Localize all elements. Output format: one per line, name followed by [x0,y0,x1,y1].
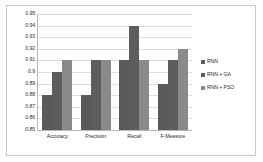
legend-label: RNN [207,59,218,64]
bar [62,60,72,130]
x-axis-tick-label: Precision [85,134,106,139]
legend-swatch-icon [201,86,205,90]
bar [158,84,168,130]
y-axis-tick-label: 0.92 [25,46,35,51]
x-axis-tick-label: Recall [127,134,141,139]
legend-item: RNN + GA [201,72,234,77]
legend-label: RNN + GA [207,72,231,77]
bar-chart-figure: 0.950.940.930.920.910.90.890.880.870.860… [0,0,263,162]
bar-group: Precision [77,14,116,130]
y-axis-tick-label: 0.87 [25,104,35,109]
bar-group: Recall [115,14,154,130]
x-axis-tick-label: F-Measure [160,134,185,139]
bar [119,60,129,130]
bar-group: F-Measure [154,14,193,130]
bar [42,95,52,130]
legend-item: RNN + PSO [201,85,234,90]
y-axis-tick-label: 0.89 [25,81,35,86]
bar [91,60,101,130]
bar [129,26,139,130]
x-axis-tick-label: Accuracy [47,134,68,139]
y-axis-tick-label: 0.86 [25,116,35,121]
bar [168,60,178,130]
plot-area: 0.950.940.930.920.910.90.890.880.870.860… [37,14,192,131]
legend-item: RNN [201,59,234,64]
legend-swatch-icon [201,73,205,77]
bar [52,72,62,130]
chart-legend: RNNRNN + GARNN + PSO [201,59,234,91]
bar [139,60,149,130]
y-axis-tick-label: 0.93 [25,35,35,40]
y-axis-tick-label: 0.9 [28,69,35,74]
legend-swatch-icon [201,60,205,64]
bar-group: Accuracy [38,14,77,130]
y-axis-tick-label: 0.95 [25,11,35,16]
legend-label: RNN + PSO [207,85,234,90]
bar [178,49,188,130]
y-axis-tick-label: 0.85 [25,127,35,132]
bar-groups: AccuracyPrecisionRecallF-Measure [38,14,192,130]
y-axis-tick-label: 0.94 [25,23,35,28]
bar [81,95,91,130]
y-axis-tick-label: 0.88 [25,93,35,98]
y-axis-tick-label: 0.91 [25,58,35,63]
bar [101,60,111,130]
